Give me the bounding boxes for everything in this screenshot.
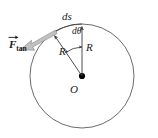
label-radius-vertical: R bbox=[86, 42, 93, 53]
label-d-theta: dθ bbox=[72, 27, 81, 37]
force-symbol-letter: F bbox=[9, 38, 16, 50]
physics-diagram-canvas bbox=[0, 0, 158, 138]
label-force-tangential: Ftan bbox=[9, 39, 27, 53]
label-center-o: O bbox=[70, 84, 78, 95]
label-radius-diagonal: R bbox=[59, 46, 66, 57]
label-ds: ds bbox=[62, 11, 72, 22]
d-theta-arc bbox=[65, 47, 82, 53]
force-symbol-wrapper: F bbox=[9, 39, 16, 50]
force-subscript: tan bbox=[16, 44, 26, 53]
